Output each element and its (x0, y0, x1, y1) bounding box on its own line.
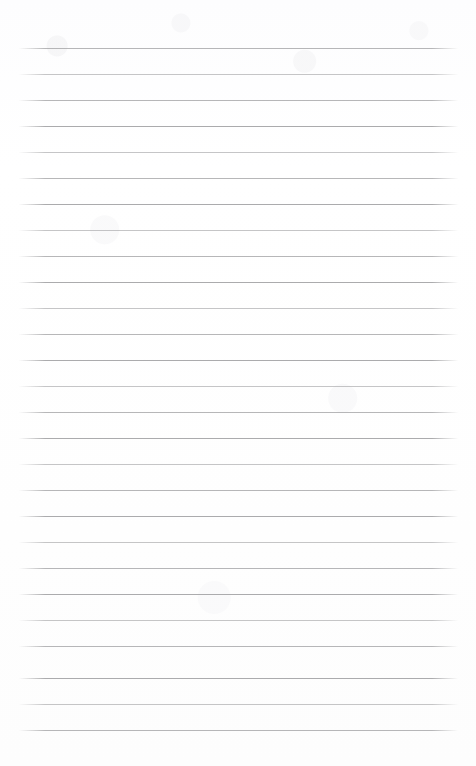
ruled-line (19, 334, 458, 335)
ruled-line (19, 386, 458, 387)
ruled-line (19, 204, 458, 205)
ruled-line (19, 594, 458, 595)
scanned-page (0, 0, 476, 766)
ruled-line (19, 256, 458, 257)
ruled-line (19, 126, 458, 127)
ruled-line (19, 74, 458, 75)
ruled-line (19, 360, 458, 361)
ruled-line (19, 438, 458, 439)
ruled-line (19, 646, 458, 647)
ruled-line (19, 308, 458, 309)
ruled-line (19, 48, 458, 49)
ruled-line (19, 568, 458, 569)
ruled-line (19, 678, 458, 679)
ruled-line (19, 152, 458, 153)
ruled-line (19, 230, 458, 231)
ruled-line (19, 542, 458, 543)
ruled-line (19, 516, 458, 517)
ruled-line (19, 464, 458, 465)
ruled-line (19, 490, 458, 491)
ruled-line (19, 704, 458, 705)
ruled-line (19, 100, 458, 101)
ruled-line (19, 282, 458, 283)
ruled-line (19, 412, 458, 413)
ruled-line (19, 178, 458, 179)
ruled-line (19, 730, 458, 731)
ruled-lines-group (0, 0, 476, 766)
ruled-line (19, 620, 458, 621)
